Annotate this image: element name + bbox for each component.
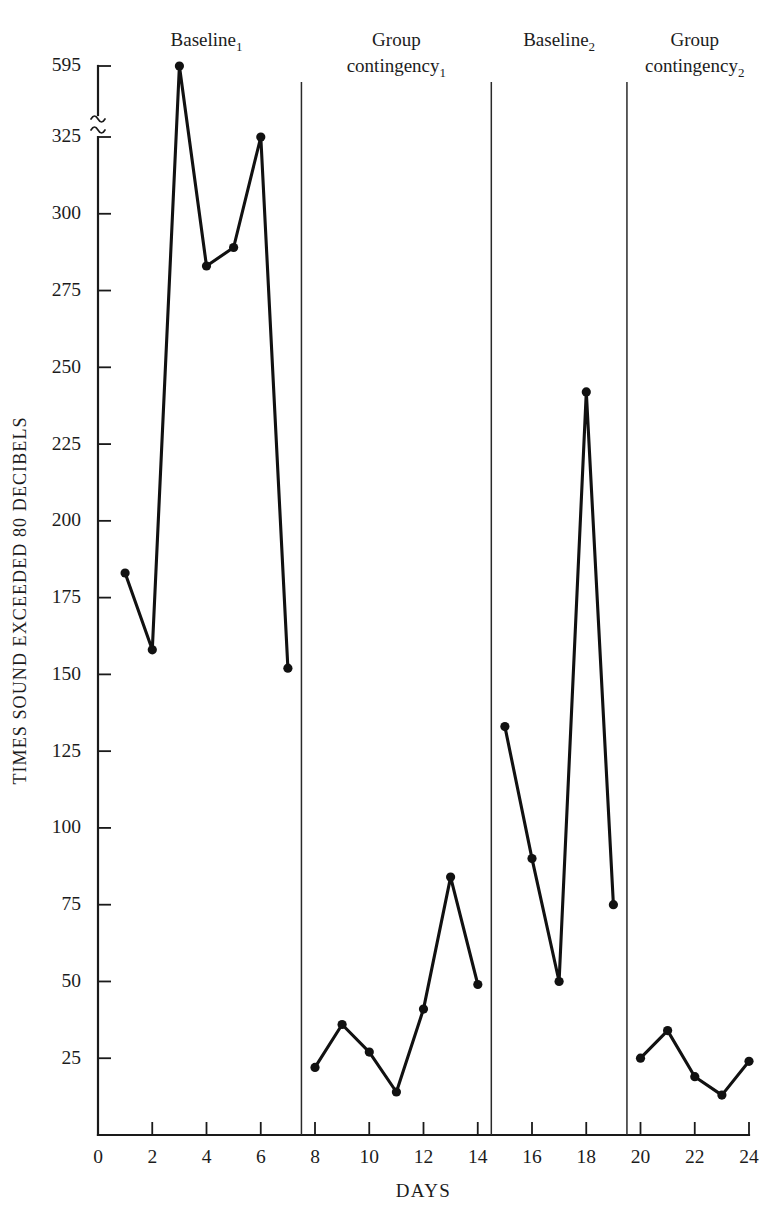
data-line-segment: [505, 392, 614, 982]
data-line-segment: [641, 1031, 750, 1096]
y-axis-tick-label: 125: [52, 740, 81, 761]
y-axis-tick-label: 25: [62, 1047, 82, 1068]
y-axis-tick-label: 200: [52, 509, 81, 530]
data-point-marker: [717, 1091, 726, 1100]
data-point-marker: [310, 1063, 319, 1072]
phase-label-line2: contingency1: [347, 55, 446, 80]
data-point-marker: [365, 1048, 374, 1057]
y-axis-tick-label: 50: [62, 970, 82, 991]
data-point-marker: [229, 243, 238, 252]
y-axis-tick-label: 250: [52, 356, 81, 377]
x-axis-tick-label: 14: [468, 1146, 488, 1167]
x-axis-tick-label: 8: [310, 1146, 320, 1167]
phase-label-line1: Group: [670, 29, 719, 50]
y-axis-tick-label: 325: [52, 125, 81, 146]
data-point-marker: [446, 873, 455, 882]
y-axis-tick-label: 595: [52, 54, 81, 75]
data-point-marker: [582, 387, 591, 396]
data-point-marker: [419, 1005, 428, 1014]
axes-group: 2550751001251501752002252502753003255950…: [52, 54, 759, 1167]
data-point-marker: [338, 1020, 347, 1029]
data-series-group: [121, 61, 754, 1099]
data-point-marker: [392, 1087, 401, 1096]
y-axis-tick-label: 275: [52, 279, 81, 300]
y-axis-tick-label: 100: [52, 816, 81, 837]
data-point-marker: [636, 1054, 645, 1063]
phase-label-subscript: 2: [589, 39, 596, 54]
data-line-segment: [315, 877, 478, 1092]
x-axis-title: DAYS: [396, 1180, 452, 1201]
line-chart: 2550751001251501752002252502753003255950…: [0, 0, 759, 1205]
figure-container: 2550751001251501752002252502753003255950…: [0, 0, 759, 1205]
axis-break-lower-icon: [91, 116, 105, 122]
data-point-marker: [500, 722, 509, 731]
data-line-segment: [125, 66, 288, 668]
data-point-marker: [121, 568, 130, 577]
x-axis-tick-label: 16: [522, 1146, 542, 1167]
phase-divider-group: [301, 82, 627, 1135]
data-point-marker: [663, 1026, 672, 1035]
data-point-marker: [202, 261, 211, 270]
x-axis-tick-label: 4: [202, 1146, 212, 1167]
x-axis-tick-label: 20: [631, 1146, 651, 1167]
x-axis-tick-label: 18: [577, 1146, 597, 1167]
y-axis-tick-label: 150: [52, 663, 81, 684]
y-axis-title: TIMES SOUND EXCEEDED 80 DECIBELS: [10, 416, 30, 784]
data-point-marker: [175, 61, 184, 70]
y-axis-tick-label: 175: [52, 586, 81, 607]
phase-label-subscript: 1: [236, 39, 243, 54]
x-axis-tick-label: 24: [739, 1146, 759, 1167]
x-axis-tick-label: 0: [93, 1146, 103, 1167]
x-axis-tick-label: 10: [360, 1146, 380, 1167]
x-axis-tick-label: 6: [256, 1146, 266, 1167]
phase-label-subscript: 1: [440, 65, 447, 80]
x-axis-tick-label: 12: [414, 1146, 434, 1167]
phase-label-line1: Baseline1: [171, 29, 243, 54]
data-point-marker: [609, 900, 618, 909]
x-axis-tick-label: 22: [685, 1146, 705, 1167]
phase-label-line1: Group: [372, 29, 421, 50]
data-point-marker: [744, 1057, 753, 1066]
axis-break-upper-icon: [91, 127, 105, 133]
data-point-marker: [283, 664, 292, 673]
data-point-marker: [527, 854, 536, 863]
data-point-marker: [148, 645, 157, 654]
phase-label-subscript: 2: [738, 65, 745, 80]
label-group: DAYSTIMES SOUND EXCEEDED 80 DECIBELSBase…: [10, 29, 744, 1201]
phase-label-line2: contingency2: [645, 55, 744, 80]
y-axis-tick-label: 225: [52, 433, 81, 454]
data-point-marker: [555, 977, 564, 986]
x-axis-tick-label: 2: [147, 1146, 157, 1167]
data-point-marker: [256, 132, 265, 141]
phase-label-line1: Baseline2: [523, 29, 595, 54]
data-point-marker: [473, 980, 482, 989]
y-axis-tick-label: 300: [52, 202, 81, 223]
data-point-marker: [690, 1072, 699, 1081]
y-axis-tick-label: 75: [62, 893, 82, 914]
